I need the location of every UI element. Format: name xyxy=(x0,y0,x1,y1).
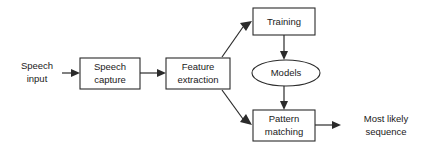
training-label: Training xyxy=(267,16,301,27)
node-pattern-matching[interactable]: Pattern matching xyxy=(253,110,315,141)
node-training[interactable]: Training xyxy=(253,8,315,35)
node-models[interactable]: Models xyxy=(252,60,320,86)
node-most-likely-sequence: Most likely sequence xyxy=(364,113,409,137)
edge-models-to-pattern xyxy=(280,86,288,110)
most-likely-sequence-line1: Most likely xyxy=(364,113,409,124)
node-speech-capture[interactable]: Speech capture xyxy=(80,58,140,89)
pattern-matching-line2: matching xyxy=(265,126,304,137)
node-feature-extraction[interactable]: Feature extraction xyxy=(166,58,230,89)
speech-capture-line1: Speech xyxy=(94,61,126,72)
edge-pattern-to-output xyxy=(315,121,341,129)
flowchart-canvas: Speech input Speech capture Feature extr… xyxy=(0,0,426,146)
edge-feature-to-training xyxy=(222,21,252,57)
feature-extraction-line2: extraction xyxy=(177,74,218,85)
feature-extraction-line1: Feature xyxy=(182,61,215,72)
edge-training-to-models xyxy=(280,35,288,60)
speech-capture-line2: capture xyxy=(94,74,126,85)
speech-input-line1: Speech xyxy=(21,60,53,71)
node-speech-input: Speech input xyxy=(21,60,53,84)
most-likely-sequence-line2: sequence xyxy=(365,126,406,137)
models-label: Models xyxy=(271,67,302,78)
edge-feature-to-pattern xyxy=(222,90,252,125)
speech-recognition-flowchart: Speech input Speech capture Feature extr… xyxy=(0,0,426,146)
edge-input-to-capture xyxy=(62,69,80,77)
edge-capture-to-feature xyxy=(140,69,166,77)
pattern-matching-line1: Pattern xyxy=(269,113,300,124)
speech-input-line2: input xyxy=(27,73,48,84)
